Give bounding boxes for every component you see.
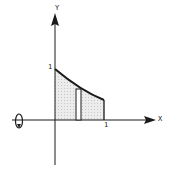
x-tick-1: 1 <box>104 122 108 129</box>
x-axis-label: X <box>158 116 162 123</box>
y-tick-1: 1 <box>48 64 52 71</box>
rotation-arrow-icon <box>16 114 23 128</box>
strip-rectangle <box>76 89 81 120</box>
y-axis-label: Y <box>55 5 59 12</box>
solid-of-revolution-diagram: Y X 1 1 <box>0 0 176 174</box>
diagram-canvas <box>0 0 176 174</box>
